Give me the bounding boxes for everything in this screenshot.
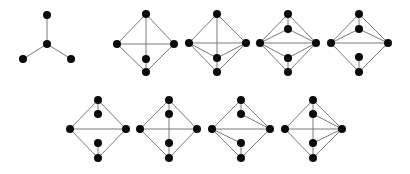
graph-edge xyxy=(169,129,197,158)
graph-edge xyxy=(117,44,146,72)
graph-edge xyxy=(140,129,169,158)
graph-vertex xyxy=(136,125,144,133)
graph-edge xyxy=(260,14,288,43)
graph-edge xyxy=(359,43,388,72)
graph-vertex xyxy=(284,68,292,76)
graph-vertex xyxy=(309,139,317,147)
graph-edge xyxy=(70,100,98,129)
graph-vertex xyxy=(165,154,173,162)
graph-edge xyxy=(189,43,217,72)
graph-edge xyxy=(47,44,71,59)
graph-vertex xyxy=(266,125,274,133)
graph-vertex xyxy=(338,125,346,133)
graph-vertex xyxy=(213,68,221,76)
graph-edge xyxy=(331,14,359,43)
graph-7 xyxy=(136,96,201,162)
graph-vertex xyxy=(19,55,27,63)
graph-vertex xyxy=(327,39,335,47)
graph-edge xyxy=(359,29,388,43)
graph-diagram-canvas xyxy=(0,0,410,174)
graph-edge xyxy=(217,14,246,43)
graph-vertex xyxy=(94,154,102,162)
graph-vertex xyxy=(309,110,317,118)
graph-3 xyxy=(185,10,250,76)
graph-vertex xyxy=(43,40,51,48)
graph-1 xyxy=(19,11,75,63)
graph-edge xyxy=(169,100,197,129)
graph-edge xyxy=(146,44,174,72)
graph-4 xyxy=(256,10,320,76)
graph-vertex xyxy=(281,125,289,133)
graph-vertex xyxy=(165,139,173,147)
graph-edge xyxy=(98,129,126,158)
graph-9 xyxy=(281,96,346,162)
graph-edge xyxy=(313,129,342,143)
graph-vertex xyxy=(309,154,317,162)
graph-vertex xyxy=(165,96,173,104)
graph-vertex xyxy=(185,39,193,47)
graph-vertex xyxy=(213,54,221,62)
graph-edge xyxy=(288,43,316,72)
graph-vertex xyxy=(208,125,216,133)
graph-vertex xyxy=(284,54,292,62)
graph-vertex xyxy=(113,40,121,48)
graph-edge xyxy=(288,14,316,43)
graph-vertex xyxy=(94,110,102,118)
graph-vertex xyxy=(142,68,150,76)
graph-8 xyxy=(208,96,274,162)
graph-edge xyxy=(70,129,98,158)
graph-vertex xyxy=(94,139,102,147)
graph-vertex xyxy=(309,96,317,104)
graph-edge xyxy=(260,29,288,43)
graph-vertex xyxy=(213,10,221,18)
graph-5 xyxy=(327,10,392,76)
graph-vertex xyxy=(67,55,75,63)
graph-vertex xyxy=(122,125,130,133)
graph-vertex xyxy=(237,139,245,147)
graph-edge xyxy=(117,14,146,44)
graph-edge xyxy=(241,129,270,158)
graph-vertex xyxy=(170,40,178,48)
graph-edge xyxy=(212,100,241,129)
graph-vertex xyxy=(284,25,292,33)
graph-edge xyxy=(285,100,313,129)
graph-edge xyxy=(189,43,217,58)
graph-vertex xyxy=(237,110,245,118)
graph-vertex xyxy=(384,39,392,47)
graph-edge xyxy=(212,129,241,143)
graph-vertex xyxy=(66,125,74,133)
graph-vertex xyxy=(256,39,264,47)
graph-edge xyxy=(288,29,316,43)
graph-edge xyxy=(241,100,270,129)
graph-vertex xyxy=(94,96,102,104)
graph-vertex xyxy=(43,11,51,19)
graph-edge xyxy=(285,129,313,158)
graph-vertex xyxy=(355,53,363,61)
graph-edge xyxy=(217,43,246,58)
graph-edge xyxy=(260,43,288,58)
graph-edge xyxy=(189,14,217,43)
graph-vertex xyxy=(142,55,150,63)
graph-edge xyxy=(241,114,270,129)
graph-diagram xyxy=(0,0,410,174)
graph-edge xyxy=(313,114,342,129)
graph-vertex xyxy=(355,10,363,18)
graph-edge xyxy=(331,43,359,72)
graph-edge xyxy=(359,14,388,43)
graph-edge xyxy=(260,43,288,72)
graph-edge xyxy=(313,100,342,129)
graph-edge xyxy=(217,43,246,72)
graph-edge xyxy=(140,100,169,129)
graph-edge xyxy=(313,129,342,158)
graph-vertex xyxy=(193,125,201,133)
graph-vertex xyxy=(242,39,250,47)
graph-vertex xyxy=(355,68,363,76)
graph-6 xyxy=(66,96,130,162)
graph-edge xyxy=(331,29,359,43)
graph-edge xyxy=(98,100,126,129)
graph-vertex xyxy=(165,110,173,118)
graph-edge xyxy=(23,44,47,59)
graph-2 xyxy=(113,10,178,76)
graph-edge xyxy=(146,14,174,44)
graph-vertex xyxy=(237,154,245,162)
